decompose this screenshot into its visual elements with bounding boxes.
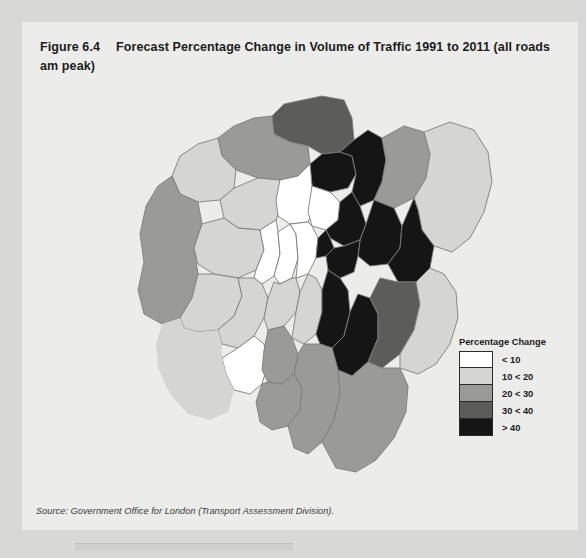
legend-label-30-40: 30 < 40 bbox=[502, 406, 533, 416]
legend-swatch-30-40 bbox=[459, 402, 493, 419]
page-title: Figure 6.4Forecast Percentage Change in … bbox=[40, 38, 554, 76]
page-edge-artifact bbox=[75, 543, 293, 551]
legend-label-20-30: 20 < 30 bbox=[502, 389, 533, 399]
legend-title: Percentage Change bbox=[459, 337, 571, 347]
region-haringey bbox=[310, 152, 356, 192]
legend-item-10-20: 10 < 20 bbox=[456, 368, 571, 385]
figure-number: Figure 6.4 bbox=[40, 40, 100, 54]
legend-item-30-40: 30 < 40 bbox=[456, 402, 571, 419]
legend-swatch-10-20 bbox=[459, 368, 493, 385]
legend-swatch-lt-10 bbox=[459, 351, 493, 368]
figure-page: Figure 6.4Forecast Percentage Change in … bbox=[22, 22, 578, 530]
legend-swatch-20-30 bbox=[459, 385, 493, 402]
figure-title-text: Forecast Percentage Change in Volume of … bbox=[40, 40, 550, 73]
source-note: Source: Government Office for London (Tr… bbox=[36, 506, 334, 516]
legend-item-gt-40: > 40 bbox=[456, 419, 571, 436]
map-legend: Percentage Change < 10 10 < 20 20 < 30 3… bbox=[456, 337, 571, 436]
legend-label-gt-40: > 40 bbox=[502, 423, 520, 433]
legend-item-lt-10: < 10 bbox=[456, 351, 571, 368]
legend-label-lt-10: < 10 bbox=[502, 355, 520, 365]
legend-swatch-gt-40 bbox=[459, 419, 493, 436]
legend-label-10-20: 10 < 20 bbox=[502, 372, 533, 382]
legend-item-20-30: 20 < 30 bbox=[456, 385, 571, 402]
